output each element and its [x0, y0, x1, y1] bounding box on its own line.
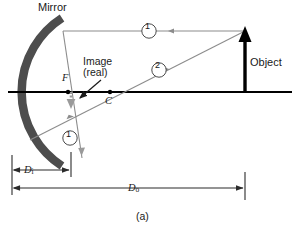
ray-2-incident	[30, 31, 245, 140]
object-label: Object	[250, 57, 282, 69]
mirror-label: Mirror	[38, 2, 67, 14]
ray-2-label: 2	[155, 61, 160, 70]
focal-point-dot	[66, 90, 70, 94]
center-of-curvature-dot	[108, 90, 112, 94]
figure-caption: (a)	[136, 211, 149, 222]
di-subscript: i	[32, 167, 34, 176]
ray-1-bottom-label: 1	[66, 130, 71, 139]
figure-container: Mirror Object Image (real) F C 1 2 1 Di …	[0, 0, 299, 235]
ray-1-incident-arrowhead	[168, 29, 174, 34]
ray-1-top-label: 1	[145, 22, 150, 31]
di-base: D	[24, 164, 32, 175]
image-callout-pointer	[80, 80, 101, 98]
focal-point-label: F	[62, 72, 68, 83]
ray-diagram-svg	[0, 0, 299, 235]
do-base: D	[128, 182, 136, 193]
image-label-line2: (real)	[83, 67, 108, 78]
center-of-curvature-label: C	[105, 95, 112, 106]
ray-1-reflected-arrowhead	[78, 147, 85, 156]
object-arrow-head	[239, 26, 252, 42]
dimension-do-label: Do	[128, 182, 139, 194]
do-subscript: o	[136, 185, 140, 194]
dimension-di-label: Di	[24, 164, 34, 176]
